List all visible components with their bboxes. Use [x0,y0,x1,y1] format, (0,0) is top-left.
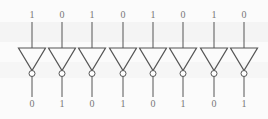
not-gate-8: 0 1 [229,0,259,119]
not-gate-6: 0 1 [168,0,198,119]
output-label: 0 [17,99,47,109]
not-gate-4: 0 1 [108,0,138,119]
output-label: 0 [199,99,229,109]
output-label: 1 [47,99,77,109]
not-gate-3: 1 0 [77,0,107,119]
output-label: 1 [168,99,198,109]
output-label: 1 [108,99,138,109]
not-gate-5: 1 0 [138,0,168,119]
inverter-array-diagram: 1 0 0 1 1 0 0 [0,0,268,119]
output-label: 0 [138,99,168,109]
not-gate-2: 0 1 [47,0,77,119]
output-label: 1 [229,99,259,109]
not-gate-7: 1 0 [199,0,229,119]
output-label: 0 [77,99,107,109]
not-gate-1: 1 0 [17,0,47,119]
